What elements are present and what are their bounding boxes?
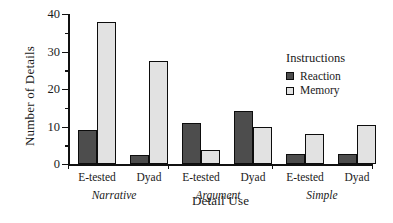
y-tick-label: 40 bbox=[48, 8, 61, 21]
x-tick-label: E-tested bbox=[78, 172, 116, 184]
legend-swatch-icon bbox=[286, 72, 294, 80]
y-axis-label: Number of Details bbox=[22, 16, 38, 176]
bar bbox=[130, 155, 149, 164]
legend-swatch-icon bbox=[286, 87, 294, 95]
bar bbox=[286, 154, 305, 165]
bar bbox=[149, 61, 168, 164]
bar bbox=[234, 111, 253, 164]
y-axis-line bbox=[68, 14, 70, 164]
legend-label: Reaction bbox=[300, 71, 341, 83]
x-group-separator-tick bbox=[168, 164, 169, 169]
bar bbox=[97, 22, 116, 164]
x-axis-line bbox=[68, 164, 373, 166]
x-axis-label: Detail Use bbox=[68, 193, 373, 209]
x-tick-label: E-tested bbox=[182, 172, 220, 184]
x-group-separator-tick bbox=[272, 164, 273, 169]
bar bbox=[201, 150, 220, 164]
y-tick-minor bbox=[65, 70, 69, 71]
x-tick-label: Dyad bbox=[241, 172, 266, 184]
y-tick-major bbox=[62, 14, 68, 15]
y-tick-label: 10 bbox=[48, 120, 61, 133]
bar bbox=[305, 134, 324, 164]
legend-title: Instructions bbox=[286, 52, 345, 65]
y-tick-minor bbox=[65, 108, 69, 109]
legend-entries: ReactionMemory bbox=[286, 71, 345, 97]
bar bbox=[78, 130, 97, 164]
y-tick-label: 20 bbox=[48, 83, 61, 96]
x-tick-label: E-tested bbox=[286, 172, 324, 184]
y-tick-minor bbox=[65, 33, 69, 34]
x-group-separator-tick bbox=[372, 164, 373, 169]
y-tick-major bbox=[62, 127, 68, 128]
bar bbox=[182, 123, 201, 164]
y-tick-minor bbox=[65, 145, 69, 146]
x-tick-label: Dyad bbox=[345, 172, 370, 184]
bar-chart-figure: Number of Details 010203040 E-testedDyad… bbox=[0, 0, 393, 223]
y-tick-major bbox=[62, 89, 68, 90]
x-tick-label: Dyad bbox=[137, 172, 162, 184]
y-tick-label: 30 bbox=[48, 45, 61, 58]
legend-entry: Reaction bbox=[286, 71, 345, 83]
x-group-separator-tick bbox=[68, 164, 69, 169]
bar bbox=[253, 127, 272, 164]
legend-entry: Memory bbox=[286, 85, 345, 97]
legend: Instructions ReactionMemory bbox=[286, 52, 345, 97]
y-tick-label: 0 bbox=[54, 158, 60, 171]
legend-label: Memory bbox=[300, 85, 340, 97]
bar bbox=[357, 125, 376, 164]
y-tick-major bbox=[62, 52, 68, 53]
bar bbox=[338, 154, 357, 165]
